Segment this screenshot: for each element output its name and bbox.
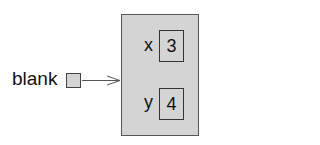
- attribute-name-x: x: [144, 35, 153, 56]
- attribute-name-y: y: [144, 92, 153, 113]
- attribute-value-y: 4: [159, 88, 184, 120]
- attribute-value-x: 3: [159, 30, 184, 62]
